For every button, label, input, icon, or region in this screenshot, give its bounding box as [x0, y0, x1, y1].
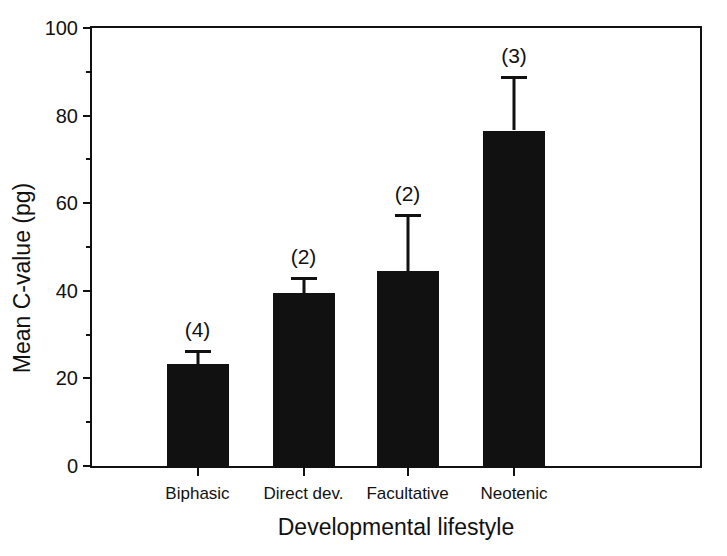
- error-bar-cap: [291, 277, 317, 280]
- y-tick-label: 40: [22, 279, 78, 302]
- plot-inner: (4)(2)(2)(3): [92, 28, 700, 466]
- y-tick-major: [83, 465, 92, 467]
- y-tick-label: 100: [22, 17, 78, 40]
- bar: [167, 364, 229, 466]
- x-tick: [513, 466, 515, 476]
- x-tick: [197, 466, 199, 476]
- x-tick: [303, 466, 305, 476]
- sample-size-label: (2): [291, 245, 317, 269]
- y-tick-major: [83, 27, 92, 29]
- y-tick-minor: [86, 334, 92, 336]
- bar: [273, 293, 335, 466]
- x-tick-label: Biphasic: [165, 484, 229, 504]
- error-bar-line: [513, 76, 516, 130]
- x-tick-label: Direct dev.: [264, 484, 344, 504]
- x-tick-label: Neotenic: [480, 484, 547, 504]
- bar-chart-figure: Mean C-value (pg) 020406080100 (4)(2)(2)…: [0, 0, 727, 556]
- y-tick-minor: [86, 71, 92, 73]
- y-tick-label: 20: [22, 367, 78, 390]
- y-tick-major: [83, 115, 92, 117]
- bar: [377, 271, 439, 466]
- y-tick-major: [83, 377, 92, 379]
- y-tick-major: [83, 202, 92, 204]
- y-tick-minor: [86, 246, 92, 248]
- error-bar-cap: [501, 76, 527, 79]
- y-axis-title-wrapper: Mean C-value (pg): [2, 0, 42, 496]
- plot-area: (4)(2)(2)(3): [90, 26, 702, 468]
- sample-size-label: (2): [395, 182, 421, 206]
- error-bar-line: [406, 214, 409, 271]
- x-axis-title: Developmental lifestyle: [90, 514, 702, 541]
- y-tick-label: 0: [22, 455, 78, 478]
- y-tick-minor: [86, 158, 92, 160]
- y-tick-minor: [86, 421, 92, 423]
- y-tick-major: [83, 290, 92, 292]
- y-tick-label: 80: [22, 104, 78, 127]
- sample-size-label: (4): [185, 318, 211, 342]
- error-bar-cap: [185, 350, 211, 353]
- x-tick: [407, 466, 409, 476]
- x-tick-label: Facultative: [366, 484, 448, 504]
- error-bar-cap: [395, 214, 421, 217]
- sample-size-label: (3): [501, 44, 527, 68]
- bar: [483, 131, 545, 467]
- y-tick-label: 60: [22, 192, 78, 215]
